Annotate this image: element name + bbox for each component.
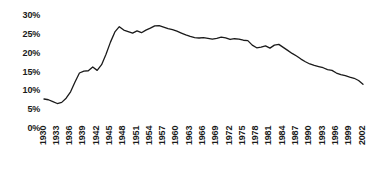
chart-container: 30%25%20%15%10%5%0% 19301933193619391942…: [0, 0, 381, 175]
data-line-series-1: [44, 26, 363, 104]
plot-area: [0, 0, 381, 175]
